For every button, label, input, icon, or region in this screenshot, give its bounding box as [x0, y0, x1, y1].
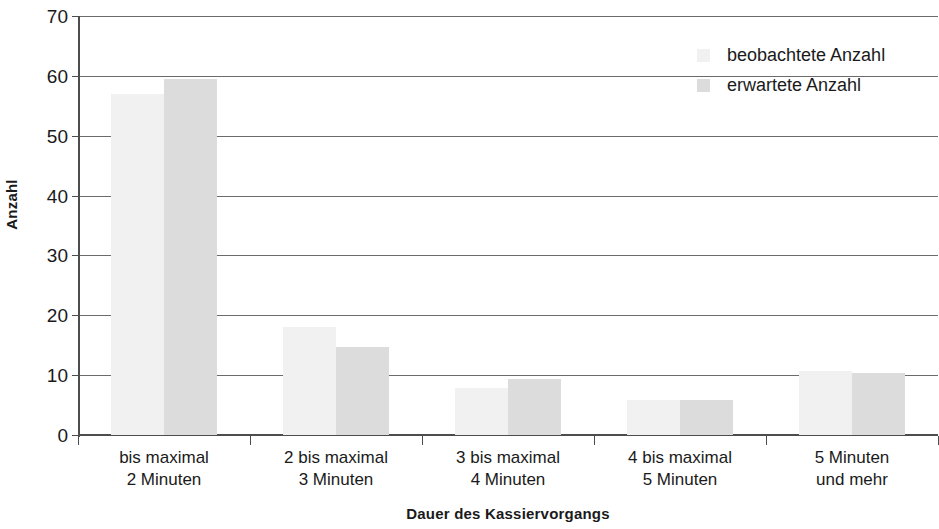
y-axis-tick-label: 0 [0, 426, 68, 445]
x-axis-category-label: 5 Minutenund mehr [766, 447, 938, 491]
y-axis-tick-label: 40 [0, 187, 68, 206]
category-label-line: 5 Minuten [594, 469, 766, 491]
x-axis-title: Dauer des Kassiervorgangs [78, 505, 938, 522]
bar-observed [111, 94, 164, 435]
x-axis-category-label: 2 bis maximal3 Minuten [250, 447, 422, 491]
category-label-line: 4 Minuten [422, 469, 594, 491]
bar-expected [680, 400, 733, 435]
bar-observed [455, 388, 508, 435]
bar-observed [627, 400, 680, 435]
legend-label: beobachtete Anzahl [727, 46, 885, 64]
category-label-line: 4 bis maximal [594, 447, 766, 469]
x-axis-tick [594, 436, 595, 445]
legend-item: beobachtete Anzahl [697, 40, 885, 70]
y-axis-tick-label: 50 [0, 127, 68, 146]
bar-expected [508, 379, 561, 435]
y-axis-tick-label: 20 [0, 306, 68, 325]
category-label-line: 3 Minuten [250, 469, 422, 491]
y-axis-tick-label: 70 [0, 7, 68, 26]
chart-legend: beobachtete Anzahlerwartete Anzahl [697, 40, 885, 100]
x-axis-tick [422, 436, 423, 445]
category-label-line: 5 Minuten [766, 447, 938, 469]
y-axis-tick-label: 10 [0, 366, 68, 385]
legend-item: erwartete Anzahl [697, 70, 885, 100]
bar-expected [164, 79, 217, 435]
x-axis-category-label: bis maximal2 Minuten [78, 447, 250, 491]
legend-label: erwartete Anzahl [727, 76, 861, 94]
category-label-line: 3 bis maximal [422, 447, 594, 469]
bar-observed [799, 371, 852, 435]
category-label-line: 2 bis maximal [250, 447, 422, 469]
bar-expected [852, 373, 905, 435]
category-label-line: 2 Minuten [78, 469, 250, 491]
category-label-line: und mehr [766, 469, 938, 491]
x-axis-tick [78, 436, 79, 445]
category-label-line: bis maximal [78, 447, 250, 469]
x-axis-tick [766, 436, 767, 445]
legend-swatch [697, 49, 710, 62]
bar-chart: Anzahl 010203040506070 bis maximal2 Minu… [0, 0, 939, 529]
x-axis-category-label: 3 bis maximal4 Minuten [422, 447, 594, 491]
legend-swatch [697, 79, 710, 92]
y-axis-tick-label: 30 [0, 246, 68, 265]
y-axis-tick-label: 60 [0, 67, 68, 86]
x-axis-category-label: 4 bis maximal5 Minuten [594, 447, 766, 491]
bar-expected [336, 347, 389, 435]
bar-observed [283, 327, 336, 435]
x-axis-tick [250, 436, 251, 445]
